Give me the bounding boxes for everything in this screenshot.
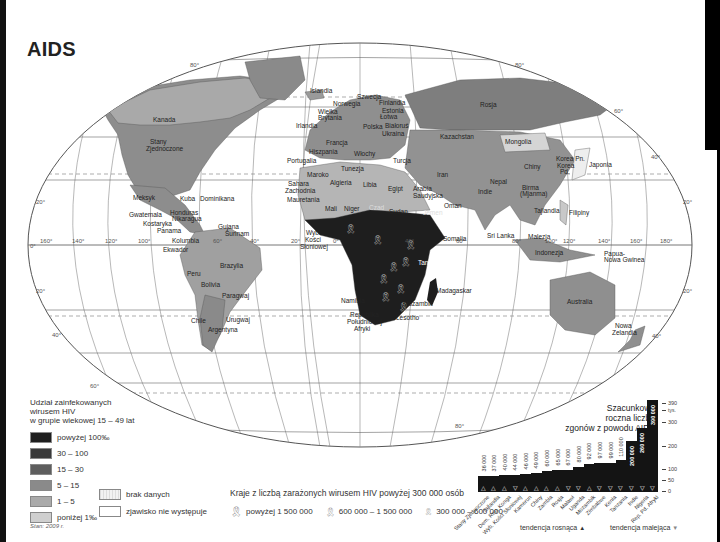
label-chiny: Chiny [524,163,541,171]
label-australia: Australia [567,298,593,305]
swatch-below-1 [30,512,52,523]
label-egipt: Egipt [388,185,403,193]
svg-text:🎗: 🎗 [345,224,356,234]
label-nepal: Nepal [490,178,508,186]
trend-down-icon: ▽ [595,484,604,492]
ribbon-legend: Kraje z liczbą zarażonych wirusem HIV po… [230,488,503,517]
label-jemen: Jemen [423,209,443,216]
svg-text:60°: 60° [90,383,100,389]
label-kolumbia: Kolumbia [172,237,199,244]
label-mauretania: Mauretania [287,196,320,203]
svg-text:🎗: 🎗 [395,284,406,294]
trend-down-icon: ▽ [638,484,647,492]
label-portugalia: Portugalia [287,157,317,165]
svg-text:20°: 20° [683,199,693,205]
label-surinam: Surinam [225,230,249,237]
trend-markers: △△△▽△△△△▽▽△▽▽▽▽▽▽ [478,484,658,492]
chart-bars: 36 00037 00040 00044 00046 00049 00060 0… [478,400,658,484]
chart-bar: 390 000 [647,400,658,484]
label-filipiny: Filipiny [569,209,590,217]
extra-legend: brak danych zjawisko nie występuje [99,486,207,520]
chart-bar: 60 000 [542,471,553,484]
trend-down-icon: ▽ [627,484,636,492]
label-tanzania: Tanzania [418,259,444,266]
label-bialorus: Białoruś [385,122,409,129]
label-chile: Chile [191,317,206,324]
bar-value-label: 60 000 [544,450,550,467]
chart-bar: 44 000 [510,475,521,484]
legend-item: 30 – 100 [30,445,135,461]
trend-up-icon: △ [585,484,594,492]
bar-value-label: 37 000 [491,455,497,472]
svg-text:40°: 40° [651,154,661,160]
chart-bar: 80 000 [573,467,584,484]
svg-text:140°: 140° [72,238,85,244]
label-francja: Francja [326,139,348,147]
chart-bar: 36 000 [478,476,489,484]
label-norwegia: Norwegia [333,100,361,108]
chart-bar: 46 000 [520,474,531,484]
bar-value-label: 36 000 [481,455,487,472]
svg-text:160°: 160° [40,238,53,244]
label-malezja: Malezja [528,233,551,241]
label-rosja: Rosja [480,101,497,109]
bar-value-label: 92 000 [586,443,592,460]
bar-value-label: 99 000 [608,441,614,458]
chart-bar: 92 000 [584,464,595,484]
label-oman: Oman [444,202,462,209]
trend-up-icon: △ [500,484,509,492]
label-gwatemala: Gwatemala [129,211,162,218]
trend-down-icon: ▽ [616,484,625,492]
trend-up-icon: △ [532,484,541,492]
svg-text:🎗: 🎗 [380,292,391,302]
label-kuba: Kuba [180,195,196,202]
label-polska: Polska [363,123,383,130]
chart-bar: 67 000 [563,470,574,484]
label-sudan: Sudan [389,208,408,215]
bar-value-label: 97 000 [597,442,603,459]
label-ekwador: Ekwador [163,246,189,253]
label-algieria: Algieria [330,179,352,187]
label-libia: Libia [363,181,377,188]
label-indie: Indie [478,188,492,195]
label-mongolia: Mongolia [505,138,532,146]
bar-value-label: 46 000 [523,453,529,470]
svg-text:40°: 40° [250,238,260,244]
label-korea-pn: Korea Pn. [556,155,585,162]
data-date: Stan: 2009 r. [30,523,64,529]
trend-up-legend: tendencja rosnąca ▲ [520,524,585,531]
trend-down-icon: ▽ [606,484,615,492]
label-irlandia: Irlandia [296,122,318,129]
swatch-above-100 [30,432,52,443]
svg-text:40°: 40° [52,332,62,338]
trend-down-icon: ▽ [574,484,583,492]
label-lesotho: Lesotho [396,314,420,321]
svg-text:180°: 180° [660,238,673,244]
deaths-bar-chart: Szacunkowa roczna liczba zgonów z powodu… [470,400,700,542]
label-kazachstan: Kazachstan [440,133,474,140]
ribbon-legend-title: Kraje z liczbą zarażonych wirusem HIV po… [230,488,503,498]
svg-text:40°: 40° [405,238,415,244]
bar-value-label: 260 000 [639,433,645,453]
label-wlochy: Włochy [354,150,376,158]
swatch-not-occurring [99,506,121,517]
chart-bar: 200 000 [626,441,637,484]
legend-item: zjawisko nie występuje [99,503,207,520]
trend-up-icon: △ [521,484,530,492]
triangle-down-icon: ▼ [672,525,678,531]
chart-bar: 40 000 [499,475,510,484]
ribbon-small-icon: 🎗 [424,508,433,516]
chart-bar: 260 000 [637,428,648,484]
svg-text:80°: 80° [455,423,465,429]
chart-bar: 97 000 [594,463,605,484]
svg-text:80°: 80° [190,62,200,68]
label-nikaragua: Nikaragua [172,215,202,223]
trend-down-legend: tendencja malejąca ▼ [610,524,678,531]
label-tunezja: Tunezja [341,165,364,173]
label-paragwaj: Paragwaj [222,292,249,300]
swatch-15-30 [30,464,52,475]
bar-value-label: 44 000 [512,453,518,470]
chart-bar: 99 000 [605,463,616,484]
trend-up-icon: △ [479,484,488,492]
label-brazylia: Brazylia [220,262,244,270]
